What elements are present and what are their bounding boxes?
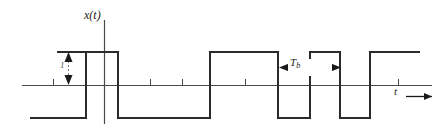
y-axis-label: x(t) xyxy=(84,8,101,23)
waveform-svg xyxy=(0,0,444,135)
waveform-figure: x(t) t 1 Tb xyxy=(0,0,444,135)
x-axis-label: t xyxy=(394,85,397,97)
bit-duration-label: Tb xyxy=(290,56,300,70)
time-axis-arrow-icon xyxy=(406,93,432,100)
bit-duration-subscript: b xyxy=(296,61,300,70)
bit-duration-arrow-icon xyxy=(279,59,341,76)
axis-ticks xyxy=(54,79,399,86)
amplitude-value-label: 1 xyxy=(60,60,65,70)
amplitude-arrow-icon xyxy=(65,52,73,85)
